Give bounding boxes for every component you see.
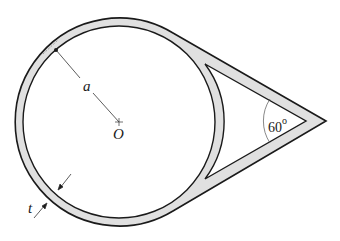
radius-label: a xyxy=(83,78,91,94)
thickness-label: t xyxy=(28,200,33,216)
center-label: O xyxy=(113,126,124,142)
thin-walled-section-diagram: a O t 60o xyxy=(0,0,340,241)
radius-end-dot xyxy=(54,48,58,52)
